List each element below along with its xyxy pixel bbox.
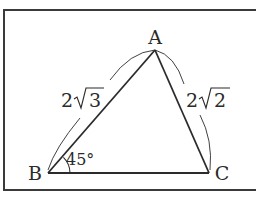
- side-label-ac-radicand: 2: [214, 89, 226, 111]
- vertex-label-b: B: [28, 162, 42, 184]
- vertex-label-c: C: [215, 162, 230, 184]
- side-label-ab-radicand: 3: [89, 89, 101, 111]
- side-ab: [48, 50, 155, 173]
- side-label-ac: 2 2: [186, 88, 230, 111]
- triangle-diagram: A B C 45° 2 3 2 2: [0, 0, 256, 204]
- length-arc-ac-upper: [155, 50, 184, 84]
- side-label-ab: 2 3: [61, 88, 104, 111]
- angle-label-b: 45°: [66, 150, 94, 169]
- vertex-label-a: A: [147, 26, 162, 48]
- side-label-ac-coef: 2: [186, 89, 198, 111]
- side-label-ab-coef: 2: [61, 89, 73, 111]
- side-ac: [155, 50, 209, 173]
- length-arc-ac-lower: [200, 115, 211, 170]
